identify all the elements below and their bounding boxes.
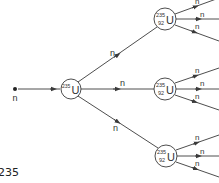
svg-text:n: n (200, 79, 204, 88)
svg-text:92: 92 (158, 90, 164, 96)
svg-text:235: 235 (157, 149, 166, 155)
svg-text:n: n (195, 66, 199, 75)
svg-text:n: n (195, 22, 199, 31)
svg-text:235: 235 (62, 83, 71, 89)
svg-text:n: n (200, 10, 204, 19)
incoming-neutron-label: n (13, 93, 18, 103)
branch-label-middle: n (120, 78, 125, 88)
svg-text:92: 92 (159, 157, 165, 163)
svg-text:n: n (195, 0, 199, 6)
branch-label-bottom: n (113, 123, 118, 133)
primary-nucleus: 235 U (61, 79, 81, 99)
caption-fragment: 235 (0, 166, 19, 179)
svg-text:U: U (167, 151, 175, 163)
svg-text:n: n (195, 92, 199, 101)
svg-text:n: n (195, 159, 199, 168)
secondary-nucleus-bottom: 235 92 U n n n (155, 133, 219, 177)
svg-text:235: 235 (156, 12, 165, 18)
branch-label-top: n (110, 48, 115, 58)
secondary-nucleus-top: 235 92 U n n n (154, 0, 219, 41)
svg-text:U: U (166, 14, 174, 26)
svg-text:n: n (200, 147, 204, 156)
neutron-dot (13, 87, 17, 91)
chain-reaction-diagram: n n n n 235 U 235 92 U n n n (0, 0, 219, 183)
svg-text:U: U (166, 84, 174, 96)
branch-line-top (78, 27, 157, 82)
svg-text:n: n (195, 133, 199, 142)
svg-text:U: U (72, 84, 80, 96)
secondary-nucleus-middle: 235 92 U n n n (154, 66, 219, 110)
svg-text:92: 92 (158, 20, 164, 26)
svg-text:235: 235 (156, 82, 165, 88)
